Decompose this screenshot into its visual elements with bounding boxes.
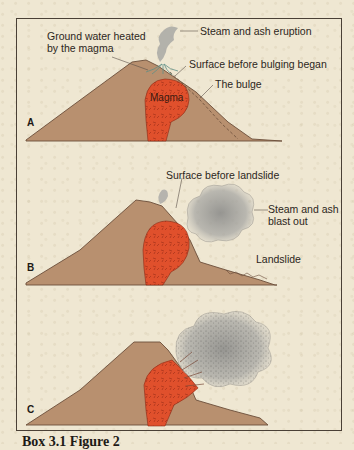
panel-a-steam-plume: [157, 26, 178, 62]
label-steam-ash-eruption: Steam and ash eruption: [200, 25, 312, 37]
label-steam-ash-blast-line1: Steam and ash: [268, 203, 339, 215]
label-surface-before-landslide: Surface before landslide: [166, 169, 279, 181]
label-surface-before-bulging: Surface before bulging began: [189, 58, 327, 70]
label-magma: Magma: [150, 92, 183, 103]
panel-b: [26, 178, 277, 285]
panel-b-small-plume: [158, 190, 168, 204]
label-the-bulge: The bulge: [215, 78, 262, 90]
label-ground-water-line1: Ground water heated: [47, 30, 146, 42]
label-landslide: Landslide: [256, 253, 301, 265]
panel-letter-a: A: [27, 117, 34, 128]
panel-letter-b: B: [27, 262, 34, 273]
figure-caption: Box 3.1 Figure 2: [22, 434, 120, 450]
panel-c: [26, 311, 271, 426]
label-steam-ash-blast-line2: blast out: [268, 215, 308, 227]
label-ground-water-line2: by the magma: [47, 42, 114, 54]
panel-b-blast-cloud: [187, 184, 254, 242]
panel-letter-c: C: [27, 404, 34, 415]
